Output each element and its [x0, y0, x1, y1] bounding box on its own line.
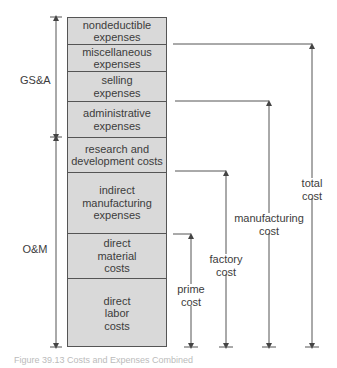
- block-label: miscellaneous expenses: [82, 46, 152, 71]
- block-label: selling expenses: [93, 74, 140, 99]
- block-nondeductible-expenses: nondeductible expenses: [68, 18, 166, 45]
- block-research-development-costs: research and development costs: [68, 138, 166, 173]
- block-miscellaneous-expenses: miscellaneous expenses: [68, 45, 166, 72]
- block-direct-material-costs: direct material costs: [68, 234, 166, 279]
- label-gsa: GS&A: [20, 74, 50, 87]
- block-label: nondeductible expenses: [83, 19, 152, 44]
- label-manufacturing-cost: manufacturing cost: [229, 212, 309, 237]
- block-label: research and development costs: [71, 143, 163, 168]
- label-total-cost: total cost: [294, 177, 330, 202]
- block-indirect-manufacturing-expenses: indirect manufacturing expenses: [68, 173, 166, 234]
- figure-caption: Figure 39.13 Costs and Expenses Combined: [14, 355, 193, 365]
- block-label: direct labor costs: [104, 295, 131, 333]
- block-direct-labor-costs: direct labor costs: [68, 279, 166, 348]
- cost-stack: nondeductible expenses miscellaneous exp…: [67, 17, 167, 347]
- block-label: administrative expenses: [83, 107, 151, 132]
- bracket-lines: [0, 0, 337, 368]
- block-label: indirect manufacturing expenses: [82, 184, 152, 222]
- label-prime-cost: prime cost: [171, 283, 211, 308]
- block-administrative-expenses: administrative expenses: [68, 102, 166, 138]
- label-om: O&M: [18, 243, 52, 256]
- block-label: direct material costs: [97, 237, 136, 275]
- block-selling-expenses: selling expenses: [68, 72, 166, 102]
- label-factory-cost: factory cost: [203, 253, 249, 278]
